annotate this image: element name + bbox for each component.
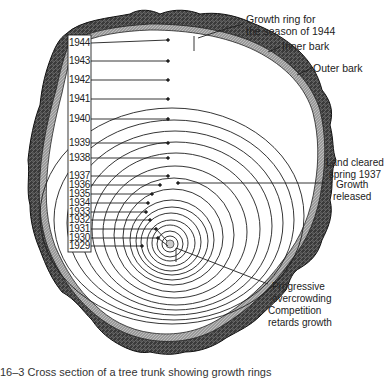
label-outer-bark: Outer bark	[313, 62, 363, 74]
label-overcrowding-line1: Progressive	[272, 281, 331, 293]
label-land-cleared: Land cleared spring 1937	[326, 157, 384, 181]
label-land-cleared-line1: Land cleared	[326, 157, 384, 169]
label-competition-line2: retards growth	[268, 317, 332, 329]
label-growth-ring-line1: Growth ring for	[246, 13, 335, 25]
year-label-1940: 1940	[69, 114, 90, 124]
year-label-1938: 1938	[69, 153, 90, 163]
year-label-1944: 1944	[69, 38, 90, 48]
year-label-1929: 1929	[69, 241, 90, 251]
label-progressive-overcrowding: Progressive overcrowding	[272, 281, 331, 305]
label-growth-released-line1: Growth	[333, 179, 371, 191]
year-label-1943: 1943	[69, 56, 90, 66]
label-overcrowding-line2: overcrowding	[272, 293, 331, 305]
label-competition: Competition retards growth	[268, 305, 332, 329]
label-inner-bark: Inner bark	[282, 40, 329, 52]
label-growth-released: Growth released	[333, 179, 371, 203]
year-label-1939: 1939	[69, 138, 90, 148]
year-label-1942: 1942	[69, 75, 90, 85]
label-growth-ring-line2: the season of 1944	[246, 25, 335, 37]
label-growth-released-line2: released	[333, 191, 371, 203]
pith	[166, 240, 174, 248]
figure-caption: 16–3 Cross section of a tree trunk showi…	[0, 366, 271, 378]
label-growth-ring: Growth ring for the season of 1944	[246, 13, 335, 37]
label-competition-line1: Competition	[268, 305, 332, 317]
year-label-1941: 1941	[69, 94, 90, 104]
